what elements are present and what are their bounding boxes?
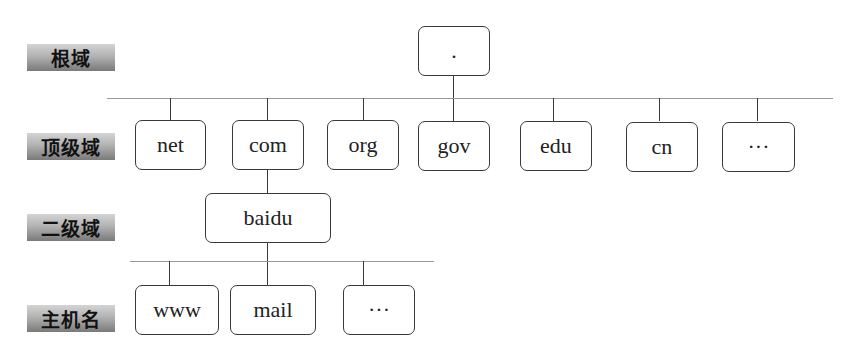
host-bus-line [130,261,434,262]
node-tld-gov: gov [418,121,490,171]
level-label-second: 二级域 [27,214,115,241]
node-tld-org: org [327,120,399,170]
node-host-www: www [135,285,219,335]
connector-org [363,98,364,120]
connector-www [169,261,170,285]
node-root: . [418,26,490,76]
node-tld-com: com [232,120,304,170]
tld-bus-line [107,98,833,99]
level-label-root: 根域 [27,44,115,71]
node-host-mail: mail [230,285,316,335]
level-label-host: 主机名 [27,305,115,332]
node-second-baidu: baidu [205,193,331,243]
connector-com-baidu [267,170,268,194]
connector-baidu-mail [267,243,268,285]
node-tld-net: net [135,120,206,170]
connector-cn [659,98,660,121]
connector-host-more [363,261,364,285]
node-tld-more: ··· [722,122,795,172]
node-tld-edu: edu [520,121,592,171]
node-tld-cn: cn [626,122,698,172]
connector-more [757,98,758,121]
connector-root-gov [453,76,454,122]
connector-net [170,98,171,120]
connector-edu [553,98,554,121]
connector-com [267,98,268,120]
node-host-more: ··· [343,285,415,335]
level-label-tld: 顶级域 [27,133,115,160]
